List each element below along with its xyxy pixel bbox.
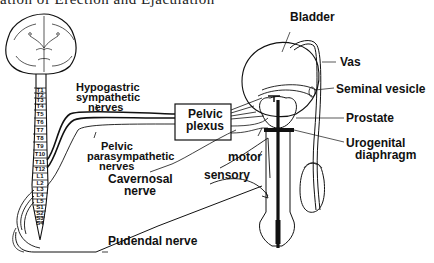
svg-text:L1: L1 bbox=[36, 173, 44, 179]
label-cavernosal: Cavernosal bbox=[108, 174, 173, 184]
testis-shape bbox=[300, 163, 325, 213]
svg-text:T10: T10 bbox=[35, 151, 46, 157]
label-nerves-2: nerves bbox=[99, 161, 134, 171]
neuroanatomy-diagram: ation of Erection and Ejaculation bbox=[0, 0, 434, 263]
label-vas: Vas bbox=[340, 57, 361, 67]
svg-text:T5: T5 bbox=[36, 111, 44, 117]
label-sensory: sensory bbox=[204, 170, 250, 180]
label-urogenital: Urogenital bbox=[346, 138, 405, 148]
label-diaphragm: diaphragm bbox=[355, 150, 416, 160]
brain-icon bbox=[6, 14, 76, 74]
bladder-shape bbox=[242, 43, 319, 117]
svg-text:T12: T12 bbox=[35, 166, 46, 172]
svg-text:T8: T8 bbox=[36, 135, 44, 141]
vas-deferens bbox=[290, 41, 321, 210]
label-pudendal-nerve: Pudendal nerve bbox=[108, 236, 197, 246]
label-motor: motor bbox=[228, 152, 262, 162]
label-cavernosal-nerve: nerve bbox=[124, 186, 156, 196]
svg-text:T7: T7 bbox=[36, 127, 44, 133]
svg-text:T11: T11 bbox=[35, 159, 46, 165]
svg-text:S4: S4 bbox=[36, 220, 44, 226]
svg-text:T4: T4 bbox=[36, 103, 44, 109]
svg-text:T6: T6 bbox=[36, 119, 44, 125]
label-pelvic-plexus-2: plexus bbox=[186, 121, 224, 131]
label-nerves-1: nerves bbox=[88, 102, 123, 112]
label-prostate: Prostate bbox=[346, 113, 394, 123]
label-pelvic-plexus-1: Pelvic bbox=[188, 109, 223, 119]
label-seminal-vesicle: Seminal vesicle bbox=[336, 84, 425, 94]
svg-text:T9: T9 bbox=[36, 143, 44, 149]
label-bladder: Bladder bbox=[290, 12, 335, 22]
